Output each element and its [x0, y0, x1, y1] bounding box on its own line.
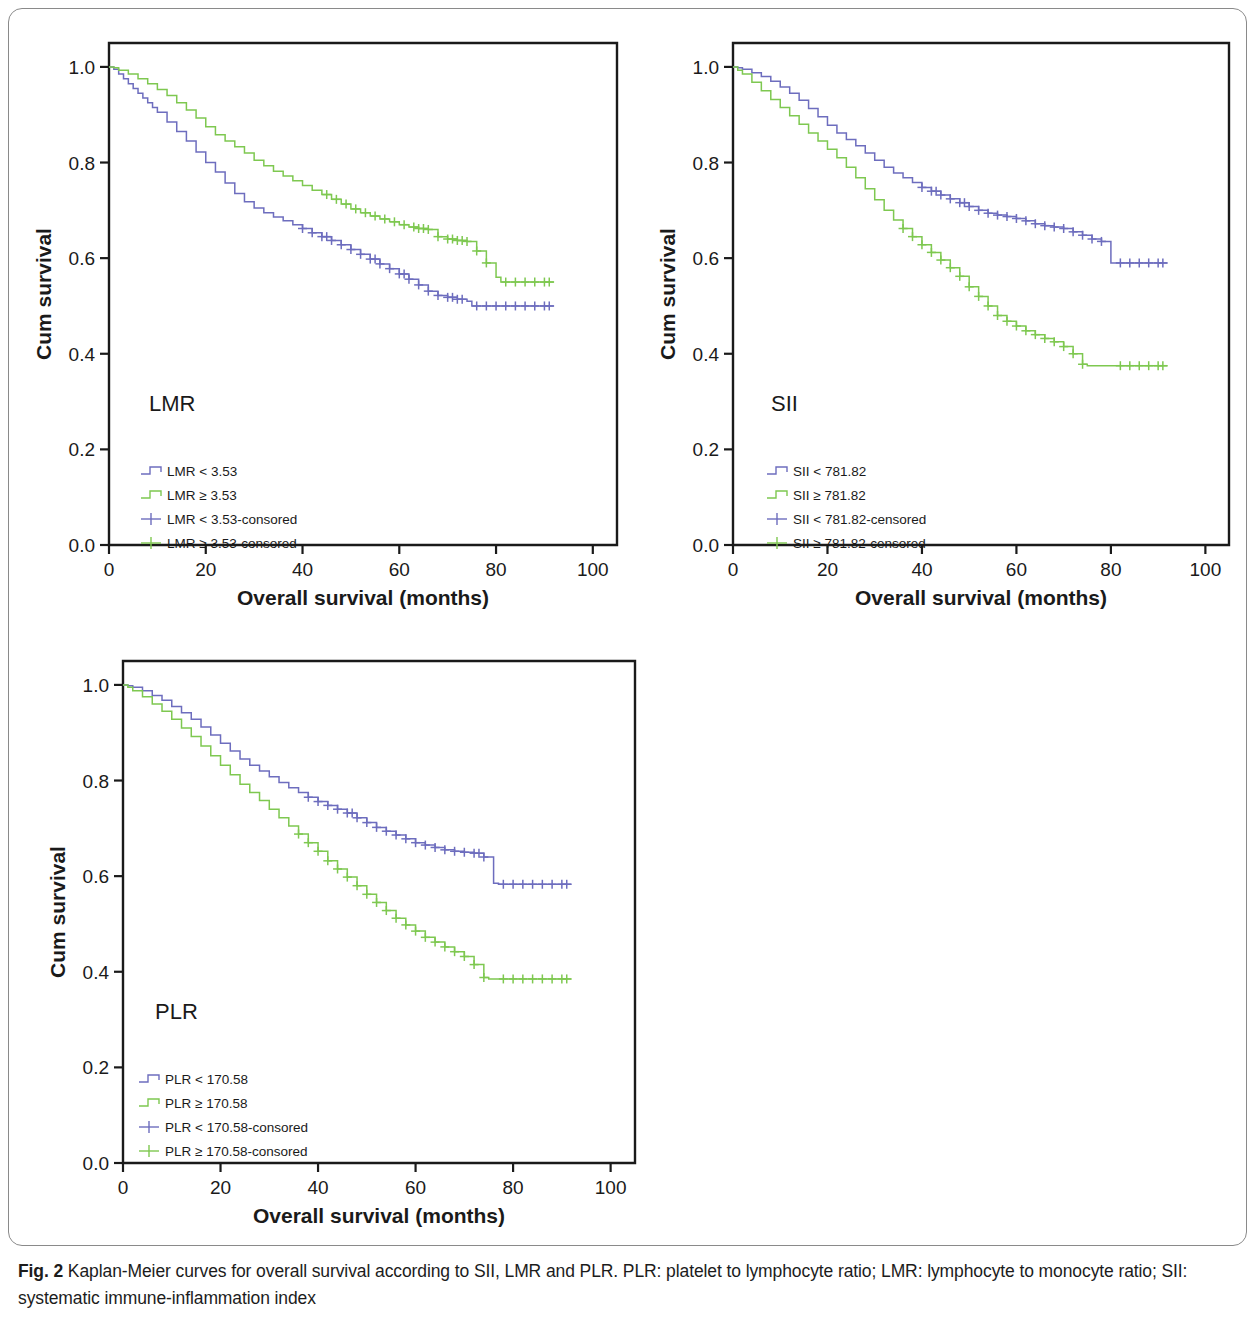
legend-label: SII ≥ 781.82 — [793, 488, 866, 503]
y-tick-label: 0.8 — [69, 153, 95, 174]
legend-step-swatch — [139, 1099, 159, 1106]
censor-marks — [322, 190, 554, 286]
legend: LMR < 3.53LMR ≥ 3.53LMR < 3.53-consoredL… — [141, 464, 297, 551]
legend-label: SII ≥ 781.82-censored — [793, 536, 926, 551]
survival-curve — [109, 67, 554, 282]
y-tick-label: 0.6 — [83, 866, 109, 887]
y-tick-label: 1.0 — [693, 57, 719, 78]
legend-label: PLR < 170.58-consored — [165, 1120, 308, 1135]
y-tick-label: 0.4 — [693, 344, 720, 365]
x-tick-label: 100 — [1190, 559, 1222, 580]
figure-frame: 0.00.20.40.60.81.0020406080100Overall su… — [8, 8, 1247, 1246]
y-tick-label: 0.0 — [693, 535, 719, 556]
chart-panel-plr: 0.00.20.40.60.81.0020406080100Overall su… — [27, 637, 667, 1255]
x-tick-label: 100 — [577, 559, 609, 580]
x-tick-label: 40 — [292, 559, 313, 580]
x-axis-title: Overall survival (months) — [253, 1204, 505, 1227]
panel-title-plr: PLR — [155, 999, 198, 1024]
x-tick-label: 60 — [405, 1177, 426, 1198]
legend-label: PLR ≥ 170.58 — [165, 1096, 247, 1111]
x-tick-label: 80 — [1100, 559, 1121, 580]
legend-label: SII < 781.82-censored — [793, 512, 926, 527]
x-tick-label: 20 — [210, 1177, 231, 1198]
x-tick-label: 0 — [118, 1177, 129, 1198]
censor-marks — [298, 224, 554, 310]
km-chart-sii: 0.00.20.40.60.81.0020406080100Overall su… — [649, 19, 1259, 637]
x-tick-label: 0 — [728, 559, 739, 580]
km-chart-lmr: 0.00.20.40.60.81.0020406080100Overall su… — [19, 19, 639, 637]
legend-step-swatch — [141, 467, 161, 474]
survival-curve — [733, 67, 1168, 366]
y-tick-label: 0.6 — [69, 248, 95, 269]
chart-panel-lmr: 0.00.20.40.60.81.0020406080100Overall su… — [19, 19, 639, 637]
legend-step-swatch — [141, 491, 161, 498]
legend-label: LMR ≥ 3.53 — [167, 488, 237, 503]
panel-title-lmr: LMR — [149, 391, 195, 416]
censor-marks — [304, 793, 571, 889]
censor-marks — [917, 183, 1167, 268]
figure-caption: Fig. 2 Kaplan-Meier curves for overall s… — [18, 1258, 1243, 1312]
panel-title-sii: SII — [771, 391, 798, 416]
legend: PLR < 170.58PLR ≥ 170.58PLR < 170.58-con… — [139, 1072, 308, 1159]
censor-marks — [294, 830, 571, 984]
legend-step-swatch — [767, 491, 787, 498]
x-tick-label: 80 — [485, 559, 506, 580]
censor-marks — [899, 224, 1168, 370]
y-axis-title: Cum survival — [656, 228, 679, 360]
chart-panel-sii: 0.00.20.40.60.81.0020406080100Overall su… — [649, 19, 1259, 637]
legend-step-swatch — [767, 467, 787, 474]
legend-label: LMR < 3.53-consored — [167, 512, 297, 527]
y-axis-title: Cum survival — [46, 846, 69, 978]
x-tick-label: 40 — [911, 559, 932, 580]
km-chart-plr: 0.00.20.40.60.81.0020406080100Overall su… — [27, 637, 667, 1255]
y-tick-label: 0.0 — [83, 1153, 109, 1174]
y-tick-label: 1.0 — [69, 57, 95, 78]
legend-label: PLR < 170.58 — [165, 1072, 248, 1087]
y-tick-label: 0.4 — [83, 962, 110, 983]
survival-curve — [109, 67, 554, 306]
legend-label: SII < 781.82 — [793, 464, 866, 479]
y-tick-label: 0.0 — [69, 535, 95, 556]
y-tick-label: 0.2 — [693, 439, 719, 460]
y-tick-label: 1.0 — [83, 675, 109, 696]
x-axis-title: Overall survival (months) — [237, 586, 489, 609]
y-tick-label: 0.8 — [83, 771, 109, 792]
x-tick-label: 0 — [104, 559, 115, 580]
y-tick-label: 0.2 — [69, 439, 95, 460]
legend: SII < 781.82SII ≥ 781.82SII < 781.82-cen… — [767, 464, 926, 551]
x-tick-label: 100 — [595, 1177, 627, 1198]
y-tick-label: 0.2 — [83, 1057, 109, 1078]
legend-label: LMR < 3.53 — [167, 464, 237, 479]
legend-label: LMR ≥ 3.53-consored — [167, 536, 297, 551]
figure-caption-text: Kaplan-Meier curves for overall survival… — [18, 1261, 1187, 1308]
figure-number: Fig. 2 — [18, 1261, 63, 1281]
legend-step-swatch — [139, 1075, 159, 1082]
x-tick-label: 60 — [1006, 559, 1027, 580]
x-tick-label: 20 — [817, 559, 838, 580]
x-tick-label: 60 — [389, 559, 410, 580]
x-tick-label: 80 — [503, 1177, 524, 1198]
survival-curve — [123, 685, 572, 979]
y-tick-label: 0.4 — [69, 344, 96, 365]
y-axis-title: Cum survival — [32, 228, 55, 360]
y-tick-label: 0.8 — [693, 153, 719, 174]
x-tick-label: 40 — [307, 1177, 328, 1198]
x-tick-label: 20 — [195, 559, 216, 580]
survival-curve — [123, 685, 572, 884]
y-tick-label: 0.6 — [693, 248, 719, 269]
x-axis-title: Overall survival (months) — [855, 586, 1107, 609]
survival-curve — [733, 67, 1168, 263]
legend-label: PLR ≥ 170.58-consored — [165, 1144, 308, 1159]
